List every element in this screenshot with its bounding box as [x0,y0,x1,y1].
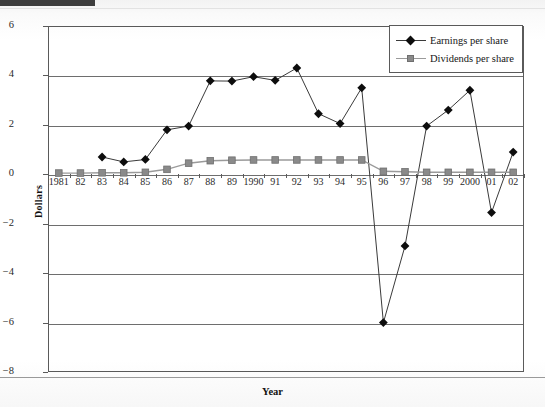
square-marker-icon [396,53,426,64]
x-tick-mark [70,174,71,178]
y-tick-label: 0 [0,167,14,178]
y-tick-mark [43,273,48,274]
x-tick-label: 98 [422,176,432,187]
x-tick-mark [113,174,114,178]
y-tick-mark [43,26,48,27]
chart-legend: Earnings per share Dividends per share [389,25,523,73]
x-tick-label: 01 [487,176,497,187]
gridline [49,76,523,77]
x-tick-label: 94 [335,176,345,187]
x-tick-mark [91,174,92,178]
x-tick-label: 97 [400,176,410,187]
y-tick-mark [43,372,48,373]
x-tick-mark [329,174,330,178]
x-tick-mark [373,174,374,178]
x-tick-mark [394,174,395,178]
x-tick-label: 91 [270,176,280,187]
x-tick-label: 1981 [49,176,69,187]
y-tick-mark [43,125,48,126]
x-tick-label: 88 [205,176,215,187]
gridline [49,225,523,226]
x-tick-label: 84 [119,176,129,187]
legend-item-earnings: Earnings per share [396,32,516,49]
y-tick-mark [43,224,48,225]
x-tick-label: 85 [140,176,150,187]
x-tick-mark [437,174,438,178]
y-tick-label: 6 [0,19,14,30]
gridline [49,274,523,275]
x-tick-label: 82 [75,176,85,187]
x-tick-mark [416,174,417,178]
x-tick-mark [156,174,157,178]
page-canvas: Dollars 6420−2−4−6−8 1981828384858687888… [0,0,545,407]
x-tick-label: 96 [378,176,388,187]
x-tick-mark [178,174,179,178]
x-tick-mark [264,174,265,178]
x-tick-mark [221,174,222,178]
x-tick-mark [135,174,136,178]
y-tick-label: 2 [0,118,14,129]
y-tick-label: −8 [0,365,14,376]
x-tick-label: 95 [357,176,367,187]
x-tick-mark [481,174,482,178]
x-tick-mark [351,174,352,178]
y-axis-title: Dollars [33,162,44,242]
y-tick-label: −6 [0,316,14,327]
x-axis-title: Year [0,386,545,397]
x-tick-mark [199,174,200,178]
x-tick-label: 89 [227,176,237,187]
x-tick-label: 92 [292,176,302,187]
x-tick-mark [502,174,503,178]
gridline [49,126,523,127]
eps-dps-line-chart: Dollars 6420−2−4−6−8 1981828384858687888… [0,0,545,407]
y-tick-label: −4 [0,266,14,277]
x-tick-label: 1990 [244,176,264,187]
y-tick-mark [43,75,48,76]
x-tick-label: 87 [184,176,194,187]
x-tick-label: 2000 [460,176,480,187]
x-tick-mark [286,174,287,178]
legend-item-dividends: Dividends per share [396,50,516,67]
plot-area [48,26,524,372]
diamond-marker-icon [396,35,426,46]
x-tick-mark [308,174,309,178]
y-tick-label: 4 [0,68,14,79]
x-tick-label: 99 [443,176,453,187]
x-tick-label: 93 [313,176,323,187]
gridline [49,324,523,325]
x-tick-label: 83 [97,176,107,187]
x-tick-mark [524,174,525,178]
bottom-divider-rule [0,377,545,378]
y-tick-mark [43,174,48,175]
x-tick-label: 02 [508,176,518,187]
y-tick-mark [43,323,48,324]
x-tick-label: 86 [162,176,172,187]
y-tick-label: −2 [0,217,14,228]
legend-label-earnings: Earnings per share [430,35,508,46]
legend-label-dividends: Dividends per share [430,53,514,64]
